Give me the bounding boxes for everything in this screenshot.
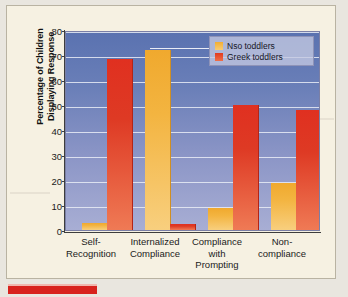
x-category-line: Recognition bbox=[66, 248, 116, 259]
bar-greek-non-compliance bbox=[296, 110, 320, 230]
bar-nso-self-recognition bbox=[82, 223, 108, 231]
bar-greek-compliance-with-prompting bbox=[233, 105, 259, 230]
x-category-line: Prompting bbox=[195, 259, 238, 270]
legend-leader-line bbox=[150, 48, 210, 49]
figure-root: Percentage of Children Displaying Respon… bbox=[0, 0, 348, 297]
y-axis-tick-labels: 80 70 60 50 40 30 20 10 0 bbox=[32, 0, 62, 297]
x-category-line: Internalized bbox=[130, 236, 179, 247]
legend-swatch-nso-icon bbox=[215, 42, 223, 50]
scan-blemish bbox=[320, 118, 334, 120]
y-tick-label: 50 bbox=[36, 102, 62, 111]
accent-rule bbox=[8, 286, 97, 294]
legend-item-nso: Nso toddlers bbox=[215, 40, 309, 51]
x-category-label-compliance-with-prompting: Compliance with Prompting bbox=[186, 236, 248, 271]
x-axis-line bbox=[64, 232, 321, 233]
bar-nso-internalized-compliance bbox=[145, 50, 171, 230]
x-category-label-internalized-compliance: Internalized Compliance bbox=[124, 236, 186, 259]
legend-item-greek: Greek toddlers bbox=[215, 51, 309, 62]
x-category-line: compliance bbox=[258, 248, 306, 259]
legend-swatch-greek-icon bbox=[215, 53, 223, 61]
y-tick-label: 30 bbox=[36, 152, 62, 161]
x-category-line: Non- bbox=[272, 236, 293, 247]
gridline-40 bbox=[66, 132, 319, 133]
gridline-80 bbox=[66, 32, 319, 33]
y-tick-label: 10 bbox=[36, 202, 62, 211]
legend-label-greek: Greek toddlers bbox=[227, 52, 283, 62]
chart-legend: Nso toddlers Greek toddlers bbox=[209, 36, 314, 66]
x-category-label-self-recognition: Self- Recognition bbox=[62, 236, 120, 259]
x-category-line: with bbox=[209, 248, 226, 259]
y-tick-label: 70 bbox=[36, 52, 62, 61]
bar-nso-non-compliance bbox=[271, 183, 297, 231]
legend-label-nso: Nso toddlers bbox=[227, 41, 275, 51]
bar-greek-internalized-compliance bbox=[170, 224, 196, 230]
y-tick-label: 20 bbox=[36, 177, 62, 186]
x-category-line: Self- bbox=[81, 236, 101, 247]
y-tick-label: 60 bbox=[36, 77, 62, 86]
x-category-line: Compliance bbox=[192, 236, 242, 247]
bar-greek-self-recognition bbox=[107, 59, 133, 230]
gridline-50 bbox=[66, 107, 319, 108]
x-category-line: Compliance bbox=[130, 248, 180, 259]
y-tick-label: 0 bbox=[36, 227, 62, 236]
y-tick-label: 80 bbox=[36, 27, 62, 36]
gridline-60 bbox=[66, 82, 319, 83]
bar-nso-compliance-with-prompting bbox=[208, 208, 234, 231]
gridline-30 bbox=[66, 157, 319, 158]
x-category-label-non-compliance: Non- compliance bbox=[250, 236, 314, 259]
y-tick-label: 40 bbox=[36, 127, 62, 136]
